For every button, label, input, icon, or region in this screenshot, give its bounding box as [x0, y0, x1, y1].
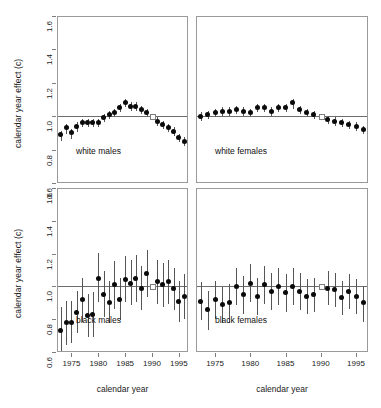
data-point[interactable]	[276, 105, 281, 110]
data-point[interactable]	[234, 284, 239, 289]
data-point[interactable]	[58, 132, 63, 137]
data-point[interactable]	[133, 104, 138, 109]
data-point[interactable]	[248, 110, 253, 115]
data-point[interactable]	[213, 110, 218, 115]
data-point[interactable]	[80, 120, 85, 125]
data-point[interactable]	[290, 284, 295, 289]
data-point[interactable]	[58, 328, 63, 333]
data-point[interactable]	[117, 105, 122, 110]
data-point[interactable]	[269, 109, 274, 114]
data-point[interactable]	[133, 276, 138, 281]
data-point[interactable]	[171, 286, 176, 291]
data-point[interactable]	[227, 300, 232, 305]
data-point[interactable]	[182, 139, 187, 144]
y-tick-label: 0.8	[45, 319, 54, 341]
data-point[interactable]	[311, 292, 316, 297]
data-point[interactable]	[96, 276, 101, 281]
panel-black-females: black females	[196, 188, 368, 352]
x-tick	[286, 353, 287, 357]
data-point[interactable]	[117, 297, 122, 302]
data-point[interactable]	[354, 294, 359, 299]
data-point[interactable]	[144, 110, 149, 115]
data-point[interactable]	[354, 124, 359, 129]
data-point[interactable]	[297, 107, 302, 112]
data-point[interactable]	[107, 112, 112, 117]
data-point[interactable]	[255, 294, 260, 299]
data-point[interactable]	[325, 117, 330, 122]
data-point[interactable]	[96, 120, 101, 125]
data-point[interactable]	[144, 271, 149, 276]
x-tick	[125, 353, 126, 357]
panel-label-white-males: white males	[76, 146, 121, 156]
data-point[interactable]	[198, 114, 203, 119]
data-point[interactable]	[220, 109, 225, 114]
data-point[interactable]	[160, 122, 165, 127]
data-point[interactable]	[346, 289, 351, 294]
data-point[interactable]	[332, 287, 337, 292]
data-point[interactable]	[325, 286, 330, 291]
data-point[interactable]	[262, 105, 267, 110]
x-tick	[215, 353, 216, 357]
data-point[interactable]	[107, 300, 112, 305]
data-point[interactable]	[166, 279, 171, 284]
data-point[interactable]	[283, 105, 288, 110]
data-point[interactable]	[346, 122, 351, 127]
data-point[interactable]	[155, 119, 160, 124]
y-tick-label: 1.0	[45, 116, 54, 138]
data-point[interactable]	[227, 109, 232, 114]
data-point[interactable]	[139, 286, 144, 291]
reference-line	[197, 116, 367, 117]
data-point[interactable]	[213, 297, 218, 302]
data-point[interactable]	[205, 307, 210, 312]
data-point[interactable]	[248, 281, 253, 286]
data-point[interactable]	[74, 124, 79, 129]
data-point[interactable]	[198, 299, 203, 304]
data-point[interactable]	[290, 100, 295, 105]
data-point[interactable]	[361, 300, 366, 305]
data-point[interactable]	[361, 127, 366, 132]
panel-black-males: black males	[57, 188, 188, 352]
data-point[interactable]	[90, 120, 95, 125]
data-point[interactable]	[101, 292, 106, 297]
reference-data-point[interactable]	[319, 284, 325, 290]
panel-label-black-males: black males	[76, 315, 121, 325]
data-point[interactable]	[234, 107, 239, 112]
data-point[interactable]	[69, 130, 74, 135]
data-point[interactable]	[332, 119, 337, 124]
data-point[interactable]	[101, 115, 106, 120]
data-point[interactable]	[304, 110, 309, 115]
reference-data-point[interactable]	[150, 284, 156, 290]
data-point[interactable]	[155, 279, 160, 284]
x-tick	[152, 353, 153, 357]
data-point[interactable]	[283, 290, 288, 295]
data-point[interactable]	[304, 294, 309, 299]
data-point[interactable]	[123, 277, 128, 282]
data-point[interactable]	[297, 289, 302, 294]
data-point[interactable]	[241, 109, 246, 114]
reference-data-point[interactable]	[319, 114, 325, 120]
data-point[interactable]	[166, 125, 171, 130]
data-point[interactable]	[171, 129, 176, 134]
data-point[interactable]	[182, 294, 187, 299]
panel-white-females: white females	[196, 16, 368, 183]
data-point[interactable]	[276, 284, 281, 289]
data-point[interactable]	[128, 281, 133, 286]
data-point[interactable]	[69, 320, 74, 325]
data-point[interactable]	[80, 297, 85, 302]
data-point[interactable]	[139, 107, 144, 112]
y-tick-label: 1.6	[45, 188, 54, 210]
data-point[interactable]	[176, 135, 181, 140]
data-point[interactable]	[339, 295, 344, 300]
data-point[interactable]	[176, 299, 181, 304]
data-point[interactable]	[339, 120, 344, 125]
data-point[interactable]	[64, 125, 69, 130]
data-point[interactable]	[255, 105, 260, 110]
data-point[interactable]	[220, 302, 225, 307]
data-point[interactable]	[64, 320, 69, 325]
data-point[interactable]	[123, 100, 128, 105]
data-point[interactable]	[112, 110, 117, 115]
data-point[interactable]	[269, 289, 274, 294]
data-point[interactable]	[85, 120, 90, 125]
data-point[interactable]	[128, 104, 133, 109]
data-point[interactable]	[241, 292, 246, 297]
